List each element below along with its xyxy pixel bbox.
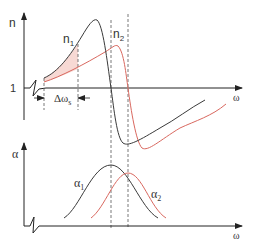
alpha-axis-label: α xyxy=(12,148,18,160)
n1-label-text: n xyxy=(63,32,70,46)
bandwidth-label-sub: s xyxy=(68,98,71,107)
n2-label: n2 xyxy=(113,28,124,43)
omega-axis-label-bottom: ω xyxy=(233,231,240,241)
bandwidth-label-text: Δω xyxy=(54,92,68,104)
n2-label-sub: 2 xyxy=(120,34,124,43)
n2-label-text: n xyxy=(113,27,120,41)
dispersion-absorption-diagram xyxy=(0,0,267,241)
axis-break-zigzag-bottom xyxy=(24,217,46,233)
n1-label: n1 xyxy=(63,33,74,48)
alpha1-label: α1 xyxy=(74,177,84,192)
axis-break-zigzag-top xyxy=(24,80,46,96)
bandwidth-label: Δωs xyxy=(54,93,71,107)
alpha1-label-sub: 1 xyxy=(80,183,84,192)
omega-axis-label-top: ω xyxy=(233,93,240,103)
n1-label-sub: 1 xyxy=(70,39,74,48)
n-axis-label: n xyxy=(9,17,16,29)
alpha2-label: α2 xyxy=(151,188,161,203)
alpha2-label-sub: 2 xyxy=(157,194,161,203)
y-tick-one: 1 xyxy=(10,83,16,94)
